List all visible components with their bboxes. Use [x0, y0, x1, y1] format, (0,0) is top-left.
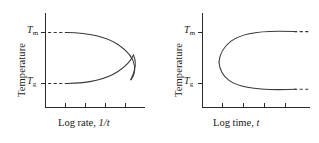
curve-lower-solid-left — [67, 55, 134, 84]
chart-panel-log-time: Temperature Tm Tg Log time, t — [160, 0, 319, 143]
curve-upper-solid-right — [219, 31, 296, 62]
tm-subscript: m — [33, 29, 38, 37]
y-tick-label-tg-left: Tg — [27, 75, 36, 86]
tm-subscript: m — [190, 29, 195, 37]
y-axis-label-left: Temperature — [16, 43, 27, 97]
x-axis-label-left-plain: Log rate, — [58, 117, 99, 128]
y-tick-label-tg-right: Tg — [184, 75, 193, 86]
tg-symbol: T — [27, 75, 33, 86]
x-axis-label-right-plain: Log time, — [213, 117, 256, 128]
y-tick-label-tm-right: Tm — [184, 24, 195, 35]
tm-symbol: T — [184, 24, 190, 35]
x-axis-label-left: Log rate, 1/t — [58, 117, 110, 128]
tg-subscript: g — [33, 80, 37, 88]
curve-lower-solid-right — [219, 62, 296, 90]
y-tick-label-tm-left: Tm — [27, 24, 38, 35]
y-axis-label-right: Temperature — [173, 43, 184, 97]
x-axis-label-right: Log time, t — [213, 117, 259, 128]
x-axis-label-left-italic: 1/t — [99, 117, 110, 128]
tm-symbol: T — [27, 24, 33, 35]
tg-symbol: T — [184, 75, 190, 86]
x-axis-label-right-italic: t — [256, 117, 259, 128]
tg-subscript: g — [190, 80, 194, 88]
curve-upper-solid-left — [67, 33, 135, 80]
figure-two-c-curve-diagrams: Temperature Tm Tg Log rate, 1/t — [0, 0, 319, 143]
chart-panel-log-rate: Temperature Tm Tg Log rate, 1/t — [0, 0, 160, 143]
